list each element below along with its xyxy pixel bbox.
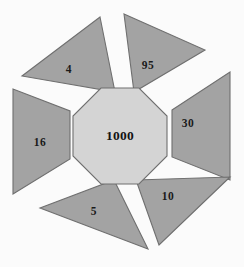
petal-top-right-shape	[124, 14, 205, 92]
petal-bottom-left: 5	[40, 180, 148, 249]
petal-bottom-right-shape	[136, 177, 230, 245]
petal-top-left: 4	[22, 17, 115, 92]
petal-top-right-label: 95	[142, 59, 155, 71]
petal-bottom-right-label: 10	[162, 190, 175, 202]
core-label: 1000	[106, 128, 134, 143]
petal-top-right: 95	[124, 14, 205, 92]
petal-left: 16	[13, 89, 70, 194]
core-group: 1000	[73, 88, 167, 184]
petal-left-label: 16	[34, 136, 47, 148]
petal-right: 30	[172, 72, 230, 180]
petal-right-label: 30	[182, 117, 195, 129]
petal-top-left-label: 4	[66, 63, 72, 75]
radial-petal-diagram: 4 95 30 10 5 16	[0, 0, 244, 267]
petal-bottom-left-label: 5	[91, 205, 97, 217]
diagram-canvas: 4 95 30 10 5 16	[0, 0, 244, 267]
petal-bottom-right: 10	[136, 177, 230, 245]
petal-top-left-shape	[22, 17, 115, 92]
